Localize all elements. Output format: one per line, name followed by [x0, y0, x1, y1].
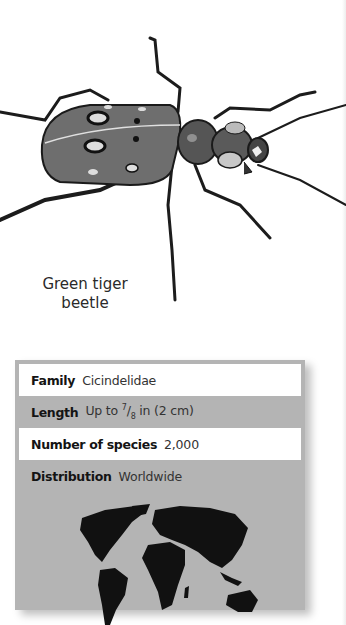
fact-value: Cicindelidae	[82, 373, 156, 388]
fact-label: Number of species	[31, 437, 157, 452]
fraction-numerator: 7	[122, 403, 127, 412]
caption-line-2: beetle	[30, 294, 140, 313]
fact-row-family: Family Cicindelidae	[19, 364, 301, 396]
fact-value: Up to 7/8 in (2 cm)	[85, 403, 193, 421]
species-caption: Green tiger beetle	[30, 275, 140, 313]
distribution-map	[60, 500, 280, 625]
length-prefix: Up to	[85, 403, 121, 418]
world-map-icon	[60, 500, 280, 625]
fact-value: Worldwide	[119, 469, 182, 484]
fact-label: Family	[31, 373, 75, 388]
fact-value: 2,000	[164, 437, 199, 452]
fact-row-species: Number of species 2,000	[19, 428, 301, 460]
fact-row-distribution: Distribution Worldwide	[19, 460, 301, 492]
fact-row-length: Length Up to 7/8 in (2 cm)	[19, 396, 301, 428]
beetle-illustration	[0, 0, 346, 320]
fact-label: Length	[31, 405, 78, 420]
length-suffix: in (2 cm)	[136, 403, 194, 418]
green-tiger-beetle-icon	[0, 0, 346, 320]
fact-label: Distribution	[31, 469, 112, 484]
caption-line-1: Green tiger	[30, 275, 140, 294]
